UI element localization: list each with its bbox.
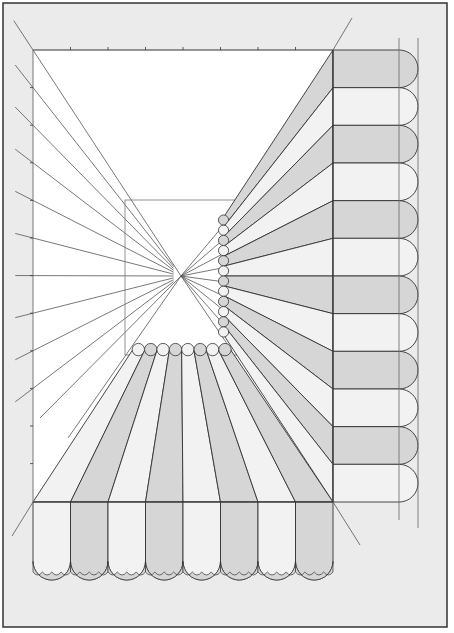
right-awning-front-stripe xyxy=(333,314,418,352)
stripe-end-bump xyxy=(182,343,194,355)
bottom-awning-front-stripe xyxy=(296,502,334,580)
stripe-end-bump xyxy=(157,343,169,355)
stripe-end-bump xyxy=(219,343,231,355)
right-awning-front-stripe xyxy=(333,50,418,88)
stripe-end-bump xyxy=(145,343,157,355)
stripe-end-bump xyxy=(218,317,228,327)
stripe-end-bump xyxy=(218,276,228,286)
awning-perspective-diagram: One-point perspective drawing of a strip… xyxy=(0,0,454,633)
right-awning-front-stripe xyxy=(333,201,418,239)
right-awning-front-stripe xyxy=(333,464,418,502)
stripe-end-bump xyxy=(169,343,181,355)
bottom-awning-front-stripe xyxy=(33,502,71,580)
stripe-end-bump xyxy=(218,296,228,306)
bottom-awning-front-stripe xyxy=(221,502,259,580)
right-awning-front-stripe xyxy=(333,427,418,465)
stripe-end-bump xyxy=(206,343,218,355)
stripe-end-bump xyxy=(218,256,228,266)
stripe-end-bump xyxy=(218,266,228,276)
bottom-awning-front-stripe xyxy=(183,502,221,580)
stripe-end-bump xyxy=(218,286,228,296)
right-awning-front-stripe xyxy=(333,163,418,201)
bottom-awning-front-stripe xyxy=(258,502,296,580)
stripe-end-bump xyxy=(218,307,228,317)
bottom-awning-front-stripe xyxy=(146,502,184,580)
right-awning-front-stripe xyxy=(333,238,418,276)
right-awning-front-stripe xyxy=(333,276,418,314)
right-awning-front-stripe xyxy=(333,125,418,163)
stripe-end-bump xyxy=(194,343,206,355)
right-awning-front-stripe xyxy=(333,389,418,427)
stripe-end-bump xyxy=(218,327,228,337)
right-awning-front-stripe xyxy=(333,351,418,389)
right-awning-front-stripe xyxy=(333,88,418,126)
bottom-awning-front-stripe xyxy=(71,502,109,580)
diagram-canvas xyxy=(0,0,454,633)
bottom-awning-front-stripe xyxy=(108,502,146,580)
